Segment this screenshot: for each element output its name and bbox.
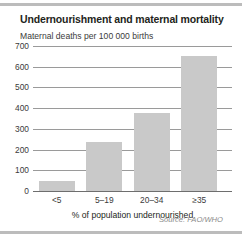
x-tick-label: <5: [33, 195, 81, 205]
y-tick-label: 200: [15, 145, 29, 153]
top-divider: [0, 3, 242, 6]
chart-subtitle: Maternal deaths per 100 000 births: [20, 31, 153, 41]
y-tick-label: 300: [15, 125, 29, 133]
chart-figure: Undernourishment and maternal mortality …: [0, 0, 242, 237]
plot-area: 0100200300400500600700 <55–1920–34≥35 % …: [33, 46, 223, 191]
x-axis-line: [33, 191, 232, 192]
y-axis-tick: [223, 108, 232, 109]
y-tick-label: 700: [15, 42, 29, 50]
bottom-divider: [0, 231, 242, 234]
y-axis-tick: [223, 150, 232, 151]
bar: [134, 113, 170, 191]
y-axis-tick: [223, 170, 232, 171]
bar: [39, 181, 75, 191]
bar: [181, 56, 217, 191]
source-note: Source: FAO/WHO: [159, 215, 223, 224]
y-axis-tick: [223, 87, 232, 88]
y-axis-tick: [223, 46, 232, 47]
x-tick-label: 5–19: [81, 195, 129, 205]
y-tick-label: 0: [24, 187, 29, 195]
x-tick-label: 20–34: [128, 195, 176, 205]
chart-title: Undernourishment and maternal mortality: [20, 13, 224, 25]
x-tick-label: ≥35: [176, 195, 224, 205]
y-tick-label: 400: [15, 104, 29, 112]
y-axis-tick: [223, 129, 232, 130]
y-tick-label: 100: [15, 166, 29, 174]
y-tick-label: 500: [15, 83, 29, 91]
gridline: [33, 46, 223, 47]
bar: [86, 142, 122, 191]
y-tick-label: 600: [15, 63, 29, 71]
y-axis-tick: [223, 67, 232, 68]
